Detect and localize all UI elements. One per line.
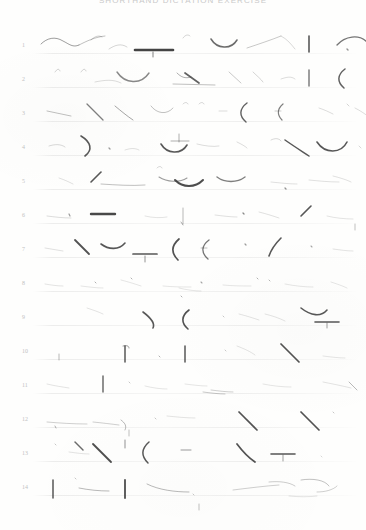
shorthand-stroke [75,442,83,450]
shorthand-stroke [201,282,202,283]
shorthand-strokes [33,370,363,404]
shorthand-strokes [33,438,363,472]
shorthand-stroke [285,188,286,189]
shorthand-stroke [285,140,309,156]
shorthand-stroke [163,286,191,287]
shorthand-stroke [317,486,337,492]
line-number: 10 [22,348,28,354]
shorthand-line: 13 [0,438,366,472]
shorthand-stroke [301,412,319,430]
shorthand-stroke [225,350,226,351]
shorthand-stroke [101,184,145,185]
shorthand-stroke [69,214,70,216]
shorthand-stroke [47,216,71,218]
shorthand-stroke [93,422,119,425]
shorthand-stroke [237,346,255,355]
shorthand-strokes [33,302,363,336]
shorthand-strokes [33,64,363,98]
shorthand-line: 4 [0,132,366,166]
shorthand-strokes [33,166,363,200]
shorthand-stroke [81,69,86,72]
shorthand-stroke [143,312,154,328]
shorthand-stroke [245,244,246,245]
shorthand-stroke [333,176,351,182]
shorthand-line: 11 [0,370,366,404]
shorthand-stroke [211,39,237,47]
shorthand-stroke [183,35,190,38]
shorthand-stroke [317,142,347,151]
shorthand-stroke [91,172,101,182]
shorthand-stroke [203,240,209,259]
shorthand-line: 10 [0,336,366,370]
shorthand-stroke [281,36,295,49]
shorthand-stroke [333,249,353,251]
line-number: 6 [22,212,25,218]
shorthand-stroke [121,420,126,430]
shorthand-stroke [183,310,189,329]
shorthand-stroke [69,452,89,454]
shorthand-stroke [347,104,349,106]
shorthand-stroke [257,278,258,279]
shorthand-line: 2 [0,64,366,98]
shorthand-stroke [237,444,255,462]
shorthand-stroke [223,316,224,317]
shorthand-strokes [33,234,363,268]
shorthand-stroke [263,384,291,387]
shorthand-stroke [215,215,237,217]
shorthand-stroke [145,216,167,218]
shorthand-stroke [123,346,129,348]
shorthand-stroke [109,148,110,149]
shorthand-stroke [253,72,263,82]
shorthand-line: 1 [0,30,366,64]
shorthand-stroke [125,149,139,151]
line-number: 2 [22,76,25,82]
shorthand-stroke [271,139,281,141]
shorthand-stroke [95,282,96,283]
shorthand-stroke [45,248,63,251]
line-number: 13 [22,450,28,456]
shorthand-strokes [33,30,363,64]
shorthand-stroke [333,412,334,413]
shorthand-stroke [151,106,173,113]
shorthand-stroke [233,485,279,490]
shorthand-stroke [323,356,345,358]
shorthand-stroke [259,212,279,218]
shorthand-stroke [87,104,103,120]
shorthand-strokes [33,98,363,132]
shorthand-stroke [129,382,130,383]
shorthand-stroke [95,80,121,83]
shorthand-stroke [327,216,353,219]
shorthand-stroke [337,37,366,45]
line-number: 7 [22,246,25,252]
shorthand-strokes [33,472,363,506]
shorthand-stroke [75,478,76,479]
shorthand-strokes [33,404,363,438]
shorthand-stroke [243,213,244,214]
shorthand-stroke [181,296,182,297]
shorthand-stroke [193,494,194,495]
shorthand-strokes [33,132,363,166]
shorthand-stroke [131,278,132,279]
shorthand-stroke [161,144,187,152]
shorthand-stroke [319,108,333,114]
shorthand-line: 6 [0,200,366,234]
shorthand-stroke [87,308,103,314]
shorthand-stroke [301,479,329,486]
line-number: 8 [22,280,25,286]
shorthand-stroke [45,284,63,286]
shorthand-stroke [359,146,361,148]
shorthand-stroke [41,38,79,46]
shorthand-stroke [285,284,313,287]
shorthand-stroke [183,103,188,105]
shorthand-stroke [75,240,89,254]
line-number: 12 [22,416,28,422]
shorthand-stroke [355,108,366,117]
shorthand-line: 3 [0,98,366,132]
shorthand-line: 5 [0,166,366,200]
shorthand-stroke [81,136,90,156]
shorthand-stroke [237,142,247,148]
shorthand-stroke [331,282,347,288]
shorthand-stroke [211,390,233,392]
line-number: 4 [22,144,25,150]
shorthand-stroke [265,314,285,321]
